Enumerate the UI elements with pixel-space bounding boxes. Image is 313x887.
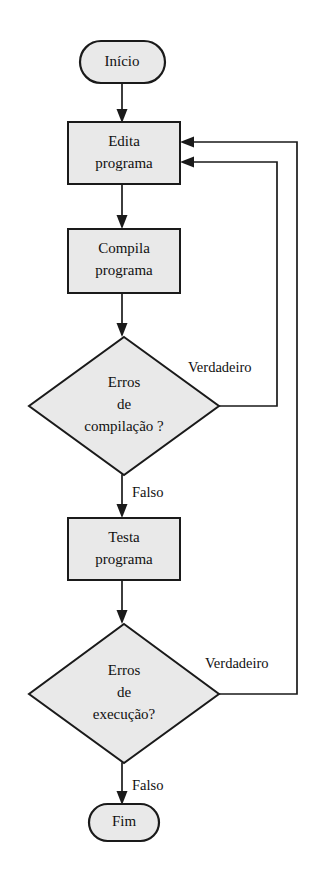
edge-decisao-compilacao-falso: [117, 475, 128, 518]
node-erros-de-compilacao-label-line1: Erros: [108, 374, 141, 390]
node-edita-programa[interactable]: Edita programa: [68, 122, 180, 184]
node-erros-de-compilacao[interactable]: Erros de compilação ?: [29, 337, 219, 475]
node-compila-programa[interactable]: Compila programa: [68, 229, 180, 293]
arrow-head-icon: [117, 323, 128, 337]
arrow-head-icon: [117, 610, 128, 624]
node-erros-de-compilacao-label-line3: compilação ?: [84, 418, 164, 434]
edge-edita-to-compila: [117, 184, 128, 229]
node-testa-programa-label-line1: Testa: [108, 529, 140, 545]
arrow-head-icon: [117, 109, 128, 123]
node-inicio[interactable]: Início: [80, 41, 165, 83]
edge-label-falso-compilacao: Falso: [132, 484, 163, 500]
process-shape: [68, 518, 180, 580]
arrow-head-icon: [180, 157, 194, 168]
node-compila-programa-label-line2: programa: [95, 262, 153, 278]
edge-line: [190, 142, 297, 694]
node-edita-programa-label-line1: Edita: [108, 133, 140, 149]
edge-label-falso-execucao: Falso: [132, 777, 163, 793]
arrow-head-icon: [117, 215, 128, 229]
node-edita-programa-label-line2: programa: [95, 155, 153, 171]
process-shape: [68, 229, 180, 293]
process-shape: [68, 122, 180, 184]
node-inicio-label: Início: [105, 53, 140, 69]
edge-label-verdadeiro-execucao: Verdadeiro: [205, 655, 269, 671]
node-compila-programa-label-line1: Compila: [98, 240, 150, 256]
arrow-head-icon: [117, 504, 128, 518]
flowchart-svg: Início Edita programa Compila programa E…: [0, 0, 313, 887]
node-fim[interactable]: Fim: [89, 804, 159, 841]
edge-label-verdadeiro-compilacao: Verdadeiro: [188, 359, 252, 375]
node-erros-de-execucao[interactable]: Erros de execução?: [29, 624, 219, 763]
node-testa-programa[interactable]: Testa programa: [68, 518, 180, 580]
edge-testa-to-decisao-execucao: [117, 580, 128, 624]
edge-compila-to-decisao-compilacao: [117, 293, 128, 337]
node-erros-de-execucao-label-line3: execução?: [93, 706, 156, 722]
arrow-head-icon: [180, 137, 194, 148]
flowchart-canvas: Início Edita programa Compila programa E…: [0, 0, 313, 887]
edge-decisao-execucao-falso: [117, 763, 128, 805]
edge-inicio-to-edita: [117, 83, 128, 123]
node-testa-programa-label-line2: programa: [95, 551, 153, 567]
node-erros-de-execucao-label-line2: de: [117, 684, 132, 700]
node-fim-label: Fim: [112, 813, 137, 829]
node-erros-de-execucao-label-line1: Erros: [108, 662, 141, 678]
node-erros-de-compilacao-label-line2: de: [117, 396, 132, 412]
